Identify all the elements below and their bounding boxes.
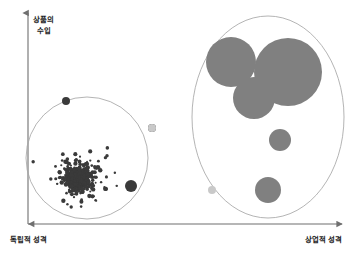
- scatter-dot: [73, 196, 75, 198]
- scatter-dot: [74, 173, 77, 176]
- scatter-dot: [56, 183, 58, 185]
- scatter-dot: [49, 177, 52, 180]
- outlier-dot: [125, 180, 137, 192]
- scatter-dot: [85, 167, 89, 171]
- scatter-dot: [114, 172, 116, 174]
- scatter-dot: [85, 185, 88, 188]
- scatter-dot: [60, 164, 62, 166]
- scatter-dot: [70, 165, 72, 167]
- scatter-dot: [80, 205, 83, 208]
- scatter-dot: [93, 165, 97, 169]
- scatter-dot: [104, 156, 107, 159]
- scatter-dot: [54, 177, 57, 180]
- scatter-dot: [106, 146, 110, 150]
- scatter-bubble-diagram: 상품의 수입 독립적 성격 상업적 성격: [0, 0, 353, 253]
- scatter-dot: [54, 165, 57, 168]
- scatter-dot: [79, 200, 83, 204]
- scatter-dot: [90, 164, 93, 167]
- scatter-dot: [65, 171, 70, 176]
- scatter-dot: [83, 181, 86, 184]
- bubble-5: [255, 177, 281, 203]
- scatter-dot: [116, 185, 118, 187]
- scatter-dot: [100, 181, 102, 183]
- independent-scatter-points: [31, 146, 118, 209]
- scatter-dot: [74, 159, 78, 163]
- scatter-dot: [90, 172, 93, 175]
- scatter-dot: [73, 182, 77, 186]
- scatter-dot: [73, 152, 77, 156]
- scatter-dot: [31, 160, 34, 163]
- bubble-4: [269, 129, 291, 151]
- scatter-dot: [66, 157, 70, 161]
- scatter-dot: [78, 163, 80, 165]
- scatter-dot: [70, 205, 73, 208]
- scatter-dot: [95, 200, 97, 202]
- scatter-dot: [94, 175, 98, 179]
- bubble-6: [208, 186, 216, 194]
- scatter-dot: [74, 190, 77, 193]
- scatter-dot: [90, 183, 93, 186]
- scatter-dot: [87, 194, 91, 198]
- scatter-dot: [78, 171, 82, 175]
- scatter-dot: [97, 160, 100, 163]
- scatter-dot: [78, 182, 80, 184]
- scatter-dot: [76, 176, 78, 178]
- scatter-dot: [91, 176, 93, 178]
- scatter-dot: [73, 179, 75, 181]
- scatter-dot: [58, 170, 61, 173]
- independent-cluster-outline: [26, 97, 148, 219]
- scatter-dot: [61, 159, 64, 162]
- scatter-dot: [86, 180, 90, 184]
- scatter-dot: [61, 199, 65, 203]
- scatter-dot: [89, 159, 91, 161]
- scatter-dot: [64, 182, 68, 186]
- scatter-dot: [104, 187, 108, 191]
- scatter-dot: [71, 170, 75, 174]
- scatter-dot: [78, 160, 82, 164]
- scatter-dot: [65, 192, 68, 195]
- x-axis-left-arrowhead: [28, 221, 34, 227]
- scatter-dot: [69, 184, 73, 188]
- scatter-dot: [59, 176, 62, 179]
- bubble-3: [233, 77, 275, 119]
- scatter-dot: [79, 156, 81, 158]
- commercial-bubble-points: [206, 37, 322, 203]
- scatter-dot: [77, 167, 80, 170]
- scatter-dot: [83, 174, 86, 177]
- light-outlier-dot: [148, 124, 156, 132]
- scatter-dot: [71, 188, 75, 192]
- scatter-dot: [88, 149, 92, 153]
- scatter-dot: [85, 179, 87, 181]
- scatter-dot: [67, 178, 70, 181]
- scatter-dot: [80, 187, 84, 191]
- scatter-dot: [86, 161, 88, 163]
- y-axis-label-line2: 수입: [37, 26, 51, 35]
- outlier-dot: [62, 97, 70, 105]
- scatter-dot: [105, 175, 108, 178]
- x-axis-label-right: 상업적 성격: [305, 235, 342, 244]
- scatter-dot: [66, 167, 70, 171]
- scatter-dot: [89, 190, 91, 192]
- scatter-dot: [61, 152, 65, 156]
- x-axis-label-left: 독립적 성격: [10, 235, 47, 244]
- scatter-dot: [93, 195, 95, 197]
- y-axis-label-line1: 상품의: [33, 15, 54, 24]
- scatter-dot: [91, 187, 95, 191]
- scatter-dot: [60, 180, 64, 184]
- scatter-dot: [91, 178, 94, 181]
- scatter-dot: [66, 203, 68, 205]
- scatter-dot: [95, 182, 97, 184]
- chart-canvas: 상품의 수입 독립적 성격 상업적 성격: [0, 0, 353, 253]
